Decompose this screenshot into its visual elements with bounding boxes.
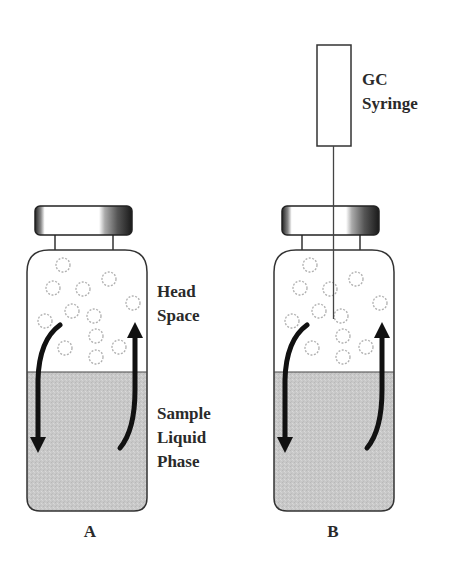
panel-label-b: B — [327, 522, 338, 542]
head-space-line-1: Head — [157, 280, 200, 304]
gc-line-1: GC — [362, 68, 418, 92]
sample-line-1: Sample — [157, 402, 211, 426]
vial-a — [27, 206, 147, 511]
panel-label-a: A — [84, 522, 96, 542]
head-space-line-2: Space — [157, 304, 200, 328]
gc-syringe — [317, 45, 351, 319]
gc-line-2: Syringe — [362, 92, 418, 116]
head-space-label: Head Space — [157, 280, 200, 328]
sample-line-2: Liquid — [157, 426, 211, 450]
syringe-barrel — [317, 45, 351, 146]
sample-liquid-phase-label: Sample Liquid Phase — [157, 402, 211, 474]
gc-syringe-label: GC Syringe — [362, 68, 418, 116]
sample-line-3: Phase — [157, 450, 211, 474]
